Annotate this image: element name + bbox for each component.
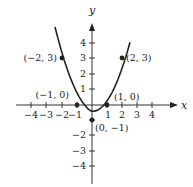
x-axis-label: x [181,99,188,112]
y-tick-label: 1 [80,83,86,94]
x-tick-label: 1 [105,109,111,120]
point-0-neg1 [90,118,95,123]
x-tick-label: −1 [68,109,82,120]
y-tick-label: −2 [72,129,86,140]
parabola-chart: x y −4 −3 −2 −1 1 2 3 4 4 3 2 1 [0,0,193,187]
point-2-3 [120,56,125,61]
point-label: (1, 0) [114,91,140,102]
point-label: (−1, 0) [35,89,69,100]
point-label: (−2, 3) [23,52,57,63]
point-label: (2, 3) [126,52,152,63]
x-axis-arrow-icon [170,102,178,108]
point-neg1-0 [75,103,80,108]
x-tick-label: −3 [39,109,53,120]
x-tick-label: 2 [119,109,125,120]
point-label: (0, −1) [95,122,129,133]
y-axis-label: y [88,4,96,17]
y-tick-label: −3 [72,145,86,156]
point-labels: (−2, 3) (2, 3) (−1, 0) (1, 0) (0, −1) [23,52,151,133]
y-axis-arrow-icon [89,23,95,31]
point-1-0 [105,103,110,108]
x-tick-label: −4 [24,109,38,120]
y-tick-label: 2 [80,68,86,79]
x-tick-label: 3 [134,109,140,120]
y-tick-label: 3 [80,52,86,63]
x-tick-label: 4 [149,109,155,120]
x-tick-label: −2 [55,109,69,120]
point-neg2-3 [60,56,65,61]
y-tick-label: −4 [72,160,86,171]
y-tick-label: 4 [80,37,86,48]
